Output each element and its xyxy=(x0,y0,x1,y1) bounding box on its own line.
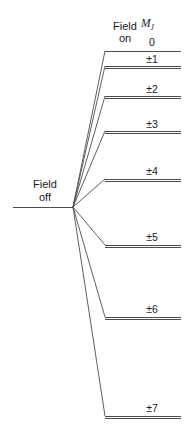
quantum-symbol: M xyxy=(141,17,151,29)
level-label-mj-6: ±6 xyxy=(132,303,172,315)
level-label-mj-7: ±7 xyxy=(132,402,172,414)
diagram-canvas xyxy=(0,0,193,438)
level-label-mj-3: ±3 xyxy=(132,118,172,130)
level-line-mj-3 xyxy=(105,131,181,133)
level-line-mj-6 xyxy=(105,317,181,319)
field-off-label-line1: Field xyxy=(17,178,73,191)
fan-line-mj-2 xyxy=(73,96,105,207)
fan-line-mj-7 xyxy=(73,207,105,416)
level-line-mj-5 xyxy=(105,245,181,247)
fan-lines-group xyxy=(73,51,105,416)
field-off-label-line2: off xyxy=(17,191,73,204)
level-label-mj-0: 0 xyxy=(132,36,172,48)
quantum-subscript: J xyxy=(151,23,154,32)
quantum-number-header: MJ xyxy=(141,17,154,34)
level-line-mj-1 xyxy=(105,66,181,68)
field-off-label: Field off xyxy=(17,178,73,203)
level-label-mj-2: ±2 xyxy=(132,83,172,95)
field-on-label-line1: Field xyxy=(105,20,145,32)
level-label-mj-4: ±4 xyxy=(132,165,172,177)
level-line-mj-4 xyxy=(105,179,181,181)
level-line-mj-7 xyxy=(105,416,181,418)
fan-line-mj-3 xyxy=(73,131,105,207)
zeeman-splitting-diagram: Field off Field on MJ 0±1±2±3±4±5±6±7 xyxy=(0,0,193,438)
fan-line-mj-1 xyxy=(73,66,105,207)
level-label-mj-1: ±1 xyxy=(132,53,172,65)
level-line-mj-2 xyxy=(105,96,181,98)
level-label-mj-5: ±5 xyxy=(132,231,172,243)
fan-line-mj-6 xyxy=(73,207,105,317)
